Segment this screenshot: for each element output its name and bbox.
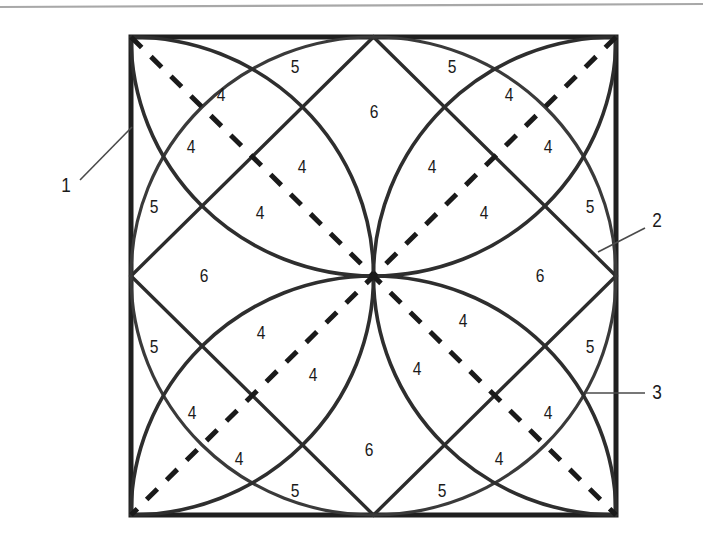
region-label: 4 — [188, 402, 197, 424]
region-label: 5 — [438, 480, 447, 502]
region-label: 6 — [365, 439, 374, 461]
region-label: 4 — [480, 202, 489, 224]
region-label: 5 — [291, 56, 300, 78]
callout-1-leader-line — [80, 127, 132, 180]
region-label: 4 — [235, 448, 244, 470]
region-label: 6 — [200, 265, 209, 287]
callout-1-label: 1 — [61, 173, 71, 196]
callout-group: 123 — [61, 127, 662, 403]
region-label: 4 — [413, 358, 422, 380]
region-label: 4 — [309, 364, 318, 386]
region-label: 4 — [505, 84, 514, 106]
region-label: 4 — [187, 136, 196, 158]
region-label: 5 — [586, 196, 595, 218]
region-label: 4 — [257, 322, 266, 344]
region-label: 5 — [586, 336, 595, 358]
region-label: 4 — [544, 136, 553, 158]
callout-3-label: 3 — [652, 380, 662, 403]
region-label: 4 — [428, 156, 437, 178]
callout-2-label: 2 — [652, 208, 662, 231]
geometric-pattern-svg: 5564444445544664455444444655 123 — [0, 0, 703, 545]
region-label: 4 — [459, 310, 468, 332]
region-label: 5 — [291, 480, 300, 502]
region-label: 4 — [495, 448, 504, 470]
region-label: 4 — [217, 84, 226, 106]
region-label: 6 — [536, 265, 545, 287]
region-label: 4 — [298, 156, 307, 178]
region-label: 4 — [544, 402, 553, 424]
region-label: 6 — [370, 101, 379, 123]
callout-2-leader-line — [598, 228, 645, 252]
region-label: 4 — [256, 202, 265, 224]
region-label: 5 — [448, 56, 457, 78]
region-label: 5 — [150, 336, 159, 358]
region-label: 5 — [150, 196, 159, 218]
figure-container: 5564444445544664455444444655 123 — [0, 0, 703, 545]
top-horizontal-rule — [0, 4, 703, 7]
